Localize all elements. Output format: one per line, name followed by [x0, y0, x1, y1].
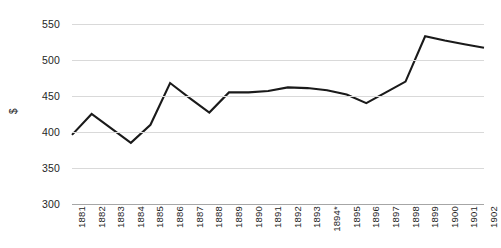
data-series-line — [72, 36, 484, 143]
x-tick-label-1887: 1887 — [194, 206, 205, 228]
x-tick-label-1884: 1884 — [135, 206, 146, 228]
x-tick-label-1891: 1891 — [272, 206, 283, 228]
x-axis-tick-labels: 1881188218831884188518861887188818891890… — [72, 206, 484, 248]
x-tick-label-1882: 1882 — [96, 206, 107, 228]
x-tick-label-1888: 1888 — [213, 206, 224, 228]
y-tick-label-350: 350 — [42, 162, 60, 174]
x-tick-label-1892: 1892 — [292, 206, 303, 228]
x-tick-label-1890: 1890 — [253, 206, 264, 228]
x-tick-label-1889: 1889 — [233, 206, 244, 228]
x-tick-label-1881: 1881 — [76, 206, 87, 228]
x-tick-label-1893: 1893 — [311, 206, 322, 228]
y-tick-label-550: 550 — [42, 18, 60, 30]
x-tick-label-1902: 1902 — [488, 206, 499, 228]
y-tick-label-500: 500 — [42, 54, 60, 66]
x-tick-label-1898: 1898 — [410, 206, 421, 228]
line-chart: $ 550500450400350300 1881188218831884188… — [0, 0, 501, 248]
x-tick-label-1886: 1886 — [174, 206, 185, 228]
x-tick-label-1897: 1897 — [390, 206, 401, 228]
x-tick-label-1900: 1900 — [449, 206, 460, 228]
gridline-500 — [72, 60, 484, 61]
gridline-400 — [72, 132, 484, 133]
series-line-chart — [72, 24, 484, 204]
x-tick-label-1894-est: 1894* — [331, 206, 342, 232]
x-tick-label-1883: 1883 — [115, 206, 126, 228]
plot-area — [72, 24, 484, 204]
x-tick-label-1896: 1896 — [370, 206, 381, 228]
gridline-350 — [72, 168, 484, 169]
y-tick-label-400: 400 — [42, 126, 60, 138]
x-tick-label-1901: 1901 — [468, 206, 479, 228]
y-tick-label-450: 450 — [42, 90, 60, 102]
gridline-300 — [72, 204, 484, 205]
y-tick-label-300: 300 — [42, 198, 60, 210]
x-tick-label-1899: 1899 — [429, 206, 440, 228]
y-axis-tick-labels: 550500450400350300 — [0, 0, 68, 248]
gridline-450 — [72, 96, 484, 97]
gridline-550 — [72, 24, 484, 25]
x-tick-label-1895: 1895 — [351, 206, 362, 228]
x-tick-label-1885: 1885 — [154, 206, 165, 228]
